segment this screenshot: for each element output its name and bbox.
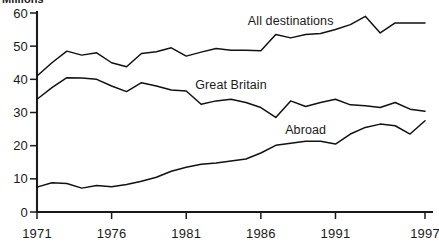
x-axis-tick-label: 1976 <box>97 226 127 241</box>
x-axis-tick-label: 1997 <box>410 226 439 241</box>
y-axis-tick-label: 0 <box>21 205 28 220</box>
series-label-abroad: Abroad <box>285 123 326 137</box>
x-axis-tick-label: 1981 <box>171 226 201 241</box>
y-axis-tick-label: 60 <box>13 6 28 21</box>
series-line-all-destinations <box>37 16 425 76</box>
x-axis-tick-label: 1986 <box>246 226 276 241</box>
y-axis-tick-label: 20 <box>13 138 28 153</box>
series-label-great-britain: Great Britain <box>195 78 266 92</box>
y-axis-tick-label: 10 <box>13 171 28 186</box>
data-series-group <box>37 16 425 188</box>
x-axis-tick-label: 1991 <box>321 226 351 241</box>
axes-group <box>30 12 432 219</box>
line-chart-plot: 0102030405060 197119761981198619911997 A… <box>0 0 439 243</box>
series-line-abroad <box>37 121 425 188</box>
y-axis-tick-label: 40 <box>13 72 28 87</box>
series-label-all-destinations: All destinations <box>248 14 334 28</box>
x-axis-tick-labels: 197119761981198619911997 <box>22 226 439 241</box>
y-axis-tick-label: 50 <box>13 39 28 54</box>
chart-container: Millions 0102030405060 19711976198119861… <box>0 0 439 243</box>
y-axis-tick-labels: 0102030405060 <box>13 6 28 220</box>
y-axis-tick-label: 30 <box>13 105 28 120</box>
x-axis-tick-label: 1971 <box>22 226 52 241</box>
series-inline-labels: All destinationsGreat BritainAbroad <box>195 14 333 137</box>
